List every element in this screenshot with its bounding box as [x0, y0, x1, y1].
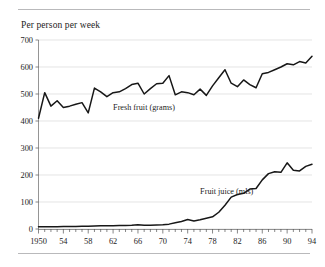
- series-annotation-0: Fresh fruit (grams): [113, 103, 175, 112]
- y-tick-label-100: 100: [20, 198, 33, 207]
- x-tick-label-1974: 74: [183, 237, 192, 246]
- y-tick-label-400: 400: [20, 117, 33, 126]
- y-tick-label-0: 0: [29, 225, 33, 234]
- x-tick-label-1990: 90: [283, 237, 291, 246]
- line-chart-plot: 0100200300400500600700 19505458626670747…: [0, 0, 325, 267]
- series-line-grams: [39, 56, 313, 118]
- x-tick-label-1994: 94: [308, 237, 317, 246]
- data-series-group: [39, 56, 313, 227]
- series-annotation-1: Fruit juice (mls): [200, 187, 253, 196]
- y-axis-ticks-group: 0100200300400500600700: [20, 36, 38, 234]
- bottom-divider-rule: [18, 253, 310, 254]
- x-tick-label-1970: 70: [159, 237, 167, 246]
- y-tick-label-300: 300: [20, 144, 33, 153]
- x-tick-label-1954: 54: [59, 237, 68, 246]
- x-tick-label-1966: 66: [134, 237, 142, 246]
- gridlines-group: [39, 40, 313, 229]
- y-tick-label-600: 600: [20, 63, 33, 72]
- series-annotations-group: Fresh fruit (grams)Fruit juice (mls): [113, 103, 254, 196]
- chart-figure: Per person per week 01002003004005006007…: [0, 0, 325, 267]
- x-tick-label-1962: 62: [109, 237, 117, 246]
- x-tick-label-1982: 82: [233, 237, 241, 246]
- x-axis-ticks-group: 19505458626670747882869094: [30, 229, 317, 246]
- x-tick-label-1958: 58: [84, 237, 92, 246]
- series-line-mls: [39, 163, 313, 227]
- y-tick-label-700: 700: [20, 36, 33, 45]
- x-tick-label-1986: 86: [258, 237, 266, 246]
- x-tick-label-1950: 1950: [30, 237, 47, 246]
- y-tick-label-500: 500: [20, 90, 33, 99]
- axis-lines-group: [39, 40, 313, 230]
- y-tick-label-200: 200: [20, 171, 33, 180]
- x-tick-label-1978: 78: [208, 237, 216, 246]
